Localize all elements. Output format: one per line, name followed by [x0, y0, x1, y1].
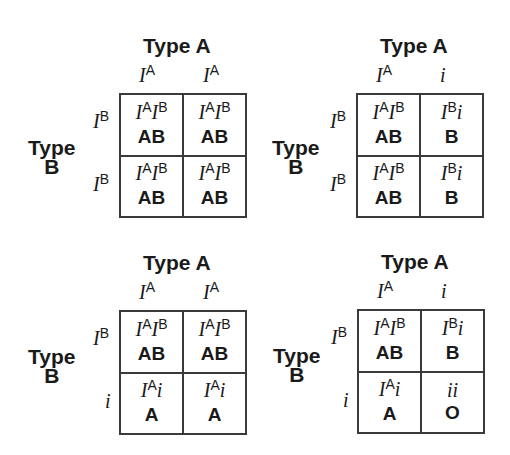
column-allele: IA [203, 64, 219, 87]
offspring-cell: IBi B [421, 310, 484, 372]
punnett-square-bottom-left: Type A Type B IAIAIBi IAIB AB IAIB AB IA… [0, 217, 255, 445]
offspring-cell: IBi B [420, 156, 483, 218]
column-allele: IA [203, 281, 219, 304]
phenotype: O [445, 401, 460, 425]
punnett-square-bottom-right: Type A Type B IAiIBi IAIB AB IBi B IAi A… [238, 216, 493, 444]
genotype: IBi [441, 101, 463, 125]
parent-type-a-label: Type A [381, 250, 449, 274]
genotype: IAi [141, 379, 163, 403]
parent-type-a-label: Type A [143, 34, 211, 58]
row-allele: i [105, 390, 111, 413]
phenotype: B [445, 125, 459, 149]
phenotype: AB [375, 125, 402, 149]
phenotype: B [446, 341, 460, 365]
side-label-line2: B [28, 157, 75, 176]
genotype: IAIB [198, 162, 230, 186]
column-allele: i [440, 64, 446, 87]
side-label-line2: B [273, 365, 320, 384]
punnett-square-top-left: Type A Type B IAIAIBIB IAIB AB IAIB AB I… [0, 0, 255, 228]
phenotype: AB [201, 125, 228, 149]
phenotype: AB [138, 125, 165, 149]
offspring-cell: IBi B [420, 94, 483, 156]
column-allele: i [441, 280, 447, 303]
column-allele: IA [377, 280, 393, 303]
punnett-grid: IAIB AB IBi B IAIB AB IBi B [356, 93, 484, 218]
genotype: IBi [441, 162, 463, 186]
offspring-cell: IAIB AB [357, 156, 420, 218]
genotype: IAi [379, 378, 401, 402]
genotype: IAIB [135, 162, 167, 186]
offspring-cell: IAIB AB [120, 94, 183, 156]
parent-type-a-label: Type A [380, 34, 448, 58]
phenotype: AB [201, 342, 228, 366]
column-allele: IA [376, 64, 392, 87]
row-allele: IB [93, 173, 109, 196]
phenotype: A [383, 402, 397, 426]
phenotype: AB [376, 341, 403, 365]
row-allele: IB [330, 110, 346, 133]
phenotype: B [445, 186, 459, 210]
side-label-line2: B [28, 366, 75, 385]
offspring-cell: IAi A [120, 373, 183, 435]
genotype: IAi [204, 379, 226, 403]
parent-type-b-label: Type B [273, 346, 320, 384]
row-allele: IB [330, 173, 346, 196]
punnett-grid: IAIB AB IBi B IAi A ii O [357, 309, 485, 434]
phenotype: AB [201, 186, 228, 210]
punnett-grid: IAIB AB IAIB AB IAIB AB IAIB AB [119, 93, 247, 218]
row-allele: IB [93, 110, 109, 133]
parent-type-b-label: Type B [272, 138, 319, 176]
offspring-cell: IAi A [358, 372, 421, 434]
phenotype: AB [138, 342, 165, 366]
column-allele: IA [139, 64, 155, 87]
genotype: IAIB [373, 317, 405, 341]
row-allele: IB [93, 327, 109, 350]
phenotype: AB [138, 186, 165, 210]
genotype: IAIB [198, 318, 230, 342]
side-label-line2: B [272, 157, 319, 176]
genotype: IAIB [198, 101, 230, 125]
phenotype: A [208, 403, 222, 427]
genotype: IAIB [135, 318, 167, 342]
genotype: IAIB [135, 101, 167, 125]
punnett-square-top-right: Type A Type B IAiIBIB IAIB AB IBi B IAIB… [237, 0, 492, 228]
offspring-cell: IAIB AB [357, 94, 420, 156]
parent-type-b-label: Type B [28, 138, 75, 176]
phenotype: AB [375, 186, 402, 210]
row-allele: i [343, 389, 349, 412]
row-allele: IB [331, 326, 347, 349]
genotype: IAIB [372, 101, 404, 125]
phenotype: A [145, 403, 159, 427]
parent-type-b-label: Type B [28, 347, 75, 385]
column-allele: IA [139, 281, 155, 304]
offspring-cell: ii O [421, 372, 484, 434]
parent-type-a-label: Type A [143, 251, 211, 275]
offspring-cell: IAIB AB [120, 311, 183, 373]
offspring-cell: IAIB AB [183, 311, 246, 373]
genotype: IAIB [372, 162, 404, 186]
punnett-grid: IAIB AB IAIB AB IAi A IAi A [119, 310, 247, 435]
offspring-cell: IAIB AB [358, 310, 421, 372]
offspring-cell: IAIB AB [120, 156, 183, 218]
genotype: ii [447, 379, 458, 401]
genotype: IBi [442, 317, 464, 341]
offspring-cell: IAi A [183, 373, 246, 435]
